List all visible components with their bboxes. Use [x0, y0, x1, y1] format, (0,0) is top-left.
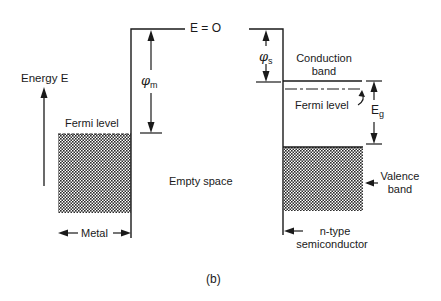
metal-fermi-level-label: Fermi level	[65, 117, 119, 130]
band-diagram	[0, 0, 441, 301]
band-gap-subscript: g	[379, 109, 384, 119]
phi-symbol: φ	[259, 49, 268, 64]
valence-band-label: Valence band	[378, 170, 422, 196]
valence-band-filled-states	[284, 147, 363, 211]
band-gap-label: Eg	[371, 104, 384, 118]
metal-work-function-label: φm	[141, 74, 158, 89]
fermi-level-pointer-arrow	[358, 90, 365, 105]
semiconductor-label-line1: n-type	[290, 225, 374, 238]
valence-band-label-line1: Valence	[378, 170, 422, 183]
conduction-band-label: Conduction band	[292, 52, 356, 78]
empty-space-label: Empty space	[169, 175, 233, 188]
semiconductor-fermi-level-label: Fermi level	[295, 99, 349, 112]
valence-band-label-line2: band	[378, 183, 422, 196]
vacuum-level-label: E = O	[190, 22, 221, 35]
semiconductor-label: n-type semiconductor	[290, 225, 374, 251]
semiconductor-work-function-label: φs	[259, 50, 273, 65]
energy-axis-arrow	[41, 87, 48, 186]
conduction-band-label-line1: Conduction	[292, 52, 356, 65]
metal-label: Metal	[81, 227, 108, 240]
phi-subscript: s	[268, 56, 273, 66]
band-gap-symbol: E	[371, 103, 379, 117]
semiconductor-label-line2: semiconductor	[290, 238, 374, 251]
valence-band-pointer-arrow	[365, 180, 378, 187]
energy-axis-label: Energy E	[21, 72, 68, 85]
phi-symbol: φ	[141, 73, 150, 88]
figure-caption: (b)	[206, 273, 221, 286]
phi-subscript: m	[150, 80, 158, 90]
metal-filled-states	[58, 134, 131, 213]
conduction-band-label-line2: band	[292, 65, 356, 78]
